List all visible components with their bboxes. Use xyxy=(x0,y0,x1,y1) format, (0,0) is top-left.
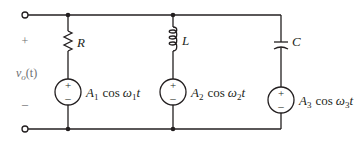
output-voltage-label: vo(t) xyxy=(16,66,37,82)
resistor-label: R xyxy=(76,35,85,50)
output-minus-sign: – xyxy=(21,97,29,111)
source-2-label: A2cosω2t xyxy=(190,85,245,102)
inductor-label: L xyxy=(181,33,189,48)
source-1-minus: – xyxy=(64,92,71,104)
source-3-plus: + xyxy=(278,87,284,99)
source-3-minus: – xyxy=(277,100,284,112)
circuit-diagram: + – + – + – R L C A1cosω1t A2cosω2t A3co… xyxy=(0,0,361,142)
resistor-icon xyxy=(64,31,72,51)
inductor-icon xyxy=(169,27,177,51)
branch-resistor xyxy=(55,15,81,129)
source-1-label: A1cosω1t xyxy=(85,85,140,102)
source-2-plus: + xyxy=(170,79,176,91)
output-plus-sign: + xyxy=(22,34,29,48)
source-2-minus: – xyxy=(169,92,176,104)
source-3-label: A3cosω3t xyxy=(298,93,353,110)
output-terminal-top xyxy=(22,12,28,18)
source-1-plus: + xyxy=(65,79,71,91)
output-terminal-bottom xyxy=(22,126,28,132)
capacitor-label: C xyxy=(292,34,301,49)
